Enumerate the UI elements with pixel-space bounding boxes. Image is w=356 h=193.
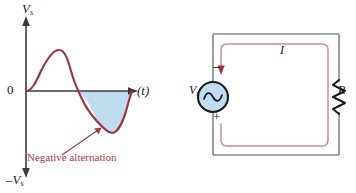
waveform-panel: Vs –Vs 0 (t) Negative alternation — [0, 0, 180, 193]
circuit-svg — [180, 0, 356, 193]
current-loop-path — [221, 44, 328, 146]
origin-label: 0 — [7, 83, 14, 96]
circuit-panel: Vs – + I R — [180, 0, 356, 193]
y-axis-up-arrowhead — [22, 16, 30, 26]
negative-alternation-annotation: Negative alternation — [27, 152, 117, 163]
circuit-wire-loop — [213, 34, 339, 155]
resistor-label: R — [338, 84, 345, 96]
source-positive-terminal-label: + — [213, 110, 220, 123]
y-axis-bottom-label: –Vs — [6, 173, 24, 188]
current-label: I — [280, 44, 284, 56]
y-axis-top-label: Vs — [22, 2, 33, 17]
x-axis-label: (t) — [137, 84, 149, 97]
source-negative-terminal-label: – — [213, 60, 220, 74]
annotation-arrowhead — [94, 128, 101, 135]
source-voltage-label: Vs — [189, 84, 199, 97]
figure-container: Vs –Vs 0 (t) Negative alternation — [0, 0, 356, 193]
waveform-svg — [0, 0, 180, 193]
